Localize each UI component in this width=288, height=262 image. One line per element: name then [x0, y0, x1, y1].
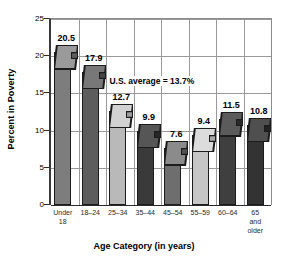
bar-side-face	[264, 125, 271, 205]
y-tick-label-5: 5	[20, 162, 44, 171]
bar	[54, 52, 71, 205]
bar-side-face	[126, 111, 133, 205]
bar	[247, 125, 264, 205]
gridline-x-5	[189, 19, 190, 205]
bar-side-face	[99, 72, 106, 205]
gridline-x-1	[79, 19, 80, 205]
y-tick-label-15: 15	[20, 88, 44, 97]
x-axis-title: Age Category (in years)	[0, 241, 288, 251]
bar-side-face	[236, 119, 243, 205]
bar-value-label: 7.6	[170, 129, 183, 139]
bar-value-label: 9.4	[197, 116, 210, 126]
gridline-x-6	[216, 19, 217, 205]
bar	[219, 119, 236, 205]
gridline-x-2	[106, 19, 107, 205]
bar-side-face	[209, 135, 216, 205]
plot-area: 20.517.912.79.97.69.411.510.8 U.S. avera…	[49, 18, 272, 205]
gridline-x-3	[134, 19, 135, 205]
y-axis-title-text: Percent in Poverty	[6, 69, 16, 150]
bar-value-label: 17.9	[85, 53, 103, 63]
y-tick-label-20: 20	[20, 51, 44, 60]
bar-side-face	[71, 52, 78, 205]
bar-side-face	[154, 131, 161, 205]
us-average-annotation: U.S. average = 13.7%	[107, 76, 196, 86]
bar-value-label: 9.9	[142, 112, 155, 122]
bar-value-label: 10.8	[250, 106, 268, 116]
poverty-by-age-bar-chart: Percent in Poverty 0510152025 20.517.912…	[0, 0, 288, 262]
bar-value-label: 20.5	[57, 33, 75, 43]
x-tick-label: 65 and older	[238, 208, 272, 235]
bar-side-face	[181, 148, 188, 205]
bar-front-face	[54, 52, 71, 205]
y-tick-label-0: 0	[20, 200, 44, 209]
gridline-y-0	[51, 205, 271, 206]
y-tick-label-10: 10	[20, 125, 44, 134]
y-axis-title: Percent in Poverty	[0, 0, 22, 218]
gridline-x-7	[244, 19, 245, 205]
bar	[192, 135, 209, 205]
bar	[164, 148, 181, 205]
bar	[137, 131, 154, 205]
bar-value-label: 11.5	[223, 100, 240, 110]
bar	[109, 111, 126, 205]
bar-value-label: 12.7	[112, 92, 130, 102]
y-tick-label-25: 25	[20, 14, 44, 23]
gridline-x-4	[161, 19, 162, 205]
bar	[82, 72, 99, 205]
bar-front-face	[82, 72, 99, 205]
